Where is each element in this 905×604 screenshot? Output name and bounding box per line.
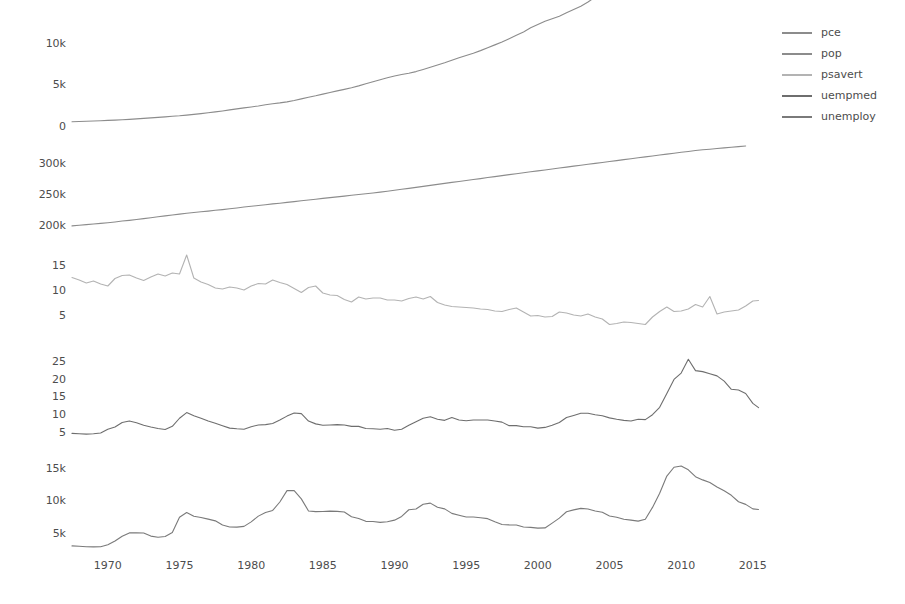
series-line-pce <box>72 0 753 122</box>
y-tick-label: 5 <box>59 310 66 321</box>
legend-key-icon <box>782 116 812 118</box>
x-tick-label: 1985 <box>309 560 337 571</box>
legend-item-pop[interactable]: pop <box>782 43 900 64</box>
y-tick-label: 25 <box>52 356 66 367</box>
x-tick-label: 1980 <box>237 560 265 571</box>
series-plot-pop <box>72 146 760 230</box>
series-line-unemploy <box>72 466 759 547</box>
facet-panel-uempmed: 510152025 <box>72 354 760 438</box>
y-tick-label: 5 <box>59 426 66 437</box>
legend-label: pop <box>821 48 842 59</box>
y-tick-label: 10k <box>46 37 66 48</box>
legend-item-psavert[interactable]: psavert <box>782 64 900 85</box>
legend-label: uempmed <box>821 90 877 101</box>
facet-panel-psavert: 51015 <box>72 250 760 334</box>
y-tick-label: 10 <box>52 285 66 296</box>
y-tick-label: 15 <box>52 260 66 271</box>
x-tick-label: 1995 <box>452 560 480 571</box>
legend-label: pce <box>821 27 841 38</box>
y-tick-label: 15k <box>46 463 66 474</box>
series-line-psavert <box>72 255 759 325</box>
facet-panel-pop: 200k250k300k <box>72 146 760 230</box>
x-tick-label: 1990 <box>381 560 409 571</box>
legend-key-icon <box>782 95 812 97</box>
legend-key-icon <box>782 32 812 34</box>
legend-label: psavert <box>821 69 863 80</box>
series-plot-unemploy <box>72 458 760 552</box>
y-tick-label: 200k <box>39 220 66 231</box>
series-plot-pce <box>72 22 760 126</box>
y-tick-label: 10k <box>46 495 66 506</box>
y-tick-label: 250k <box>39 189 66 200</box>
legend-label: unemploy <box>821 111 876 122</box>
faceted-timeseries-chart: 05k10k200k250k300k510155101520255k10k15k… <box>0 0 905 604</box>
y-tick-label: 10 <box>52 409 66 420</box>
series-plot-psavert <box>72 250 760 334</box>
series-plot-uempmed <box>72 354 760 438</box>
legend-item-uempmed[interactable]: uempmed <box>782 85 900 106</box>
legend-key-icon <box>782 74 812 76</box>
y-tick-label: 0 <box>59 121 66 132</box>
y-tick-label: 5k <box>53 527 66 538</box>
x-tick-label: 2010 <box>667 560 695 571</box>
facet-panel-pce: 05k10k <box>72 22 760 126</box>
series-line-pop <box>72 146 746 226</box>
y-tick-label: 5k <box>53 79 66 90</box>
legend-key-icon <box>782 53 812 55</box>
x-tick-label: 1975 <box>166 560 194 571</box>
y-tick-label: 15 <box>52 391 66 402</box>
x-tick-label: 2005 <box>596 560 624 571</box>
y-tick-label: 300k <box>39 158 66 169</box>
series-line-uempmed <box>72 359 759 434</box>
legend: pcepoppsavertuempmedunemploy <box>782 22 900 127</box>
x-tick-label: 1970 <box>94 560 122 571</box>
x-axis: 1970197519801985199019952000200520102015 <box>72 560 760 582</box>
x-tick-label: 2015 <box>739 560 767 571</box>
y-tick-label: 20 <box>52 373 66 384</box>
legend-item-unemploy[interactable]: unemploy <box>782 106 900 127</box>
legend-item-pce[interactable]: pce <box>782 22 900 43</box>
facet-panel-unemploy: 5k10k15k <box>72 458 760 552</box>
x-tick-label: 2000 <box>524 560 552 571</box>
